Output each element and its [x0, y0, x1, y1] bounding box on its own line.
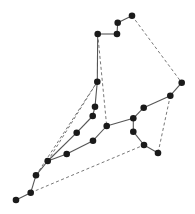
graph-node [130, 115, 137, 122]
graph-node [178, 79, 185, 86]
graph-node [27, 189, 34, 196]
solid-edges [16, 16, 182, 200]
graph-node [114, 31, 121, 38]
solid-edge [107, 118, 134, 126]
graph-node [44, 158, 51, 165]
graph-node [92, 103, 99, 110]
solid-edge [144, 96, 171, 108]
graph-node [13, 197, 20, 204]
solid-edge [77, 116, 93, 133]
graph-diagram [0, 0, 195, 214]
graph-node [90, 137, 97, 144]
graph-node [114, 19, 121, 26]
graph-node [129, 12, 136, 19]
graph-node [89, 113, 96, 120]
graph-node [33, 172, 40, 179]
graph-node [167, 92, 174, 99]
graph-node [140, 104, 147, 111]
dashed-edge [31, 145, 144, 193]
dashed-edge [132, 16, 182, 83]
graph-node [155, 150, 162, 157]
graph-node [94, 78, 101, 85]
graph-node [94, 31, 101, 38]
dashed-edge [48, 82, 98, 161]
graph-node [73, 129, 80, 136]
dashed-edge [158, 96, 170, 153]
graph-node [103, 123, 110, 130]
dashed-edges [31, 16, 182, 193]
graph-node [130, 128, 137, 135]
graph-node [141, 142, 148, 149]
solid-edge [67, 141, 93, 154]
graph-node [63, 151, 70, 158]
